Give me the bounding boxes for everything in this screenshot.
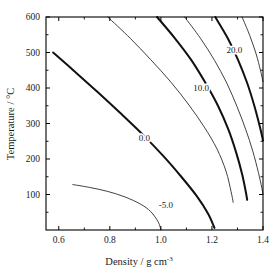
x-tick-label: 0.8: [104, 235, 116, 245]
y-tick-label: 400: [26, 83, 41, 93]
y-tick-label: 100: [26, 190, 41, 200]
y-tick-label: 200: [26, 154, 41, 164]
contour-label-0p0: 0.0: [139, 133, 151, 143]
contour-label-10p0: 10.0: [193, 83, 209, 93]
y-tick-label: 300: [26, 119, 41, 129]
contour-label-neg5p0: -5.0: [159, 200, 174, 210]
contour-label-20p0: 20.0: [227, 45, 243, 55]
x-tick-label: 0.6: [53, 235, 65, 245]
x-axis-title: Density / g cm-3: [105, 255, 173, 267]
chart-canvas: 0.60.81.01.21.4 100200300400500600 -5.0-…: [0, 0, 278, 278]
x-tick-label: 1.0: [155, 235, 167, 245]
x-tick-label: 1.2: [206, 235, 218, 245]
y-tick-label: 600: [26, 12, 41, 22]
x-tick-label: 1.4: [257, 235, 269, 245]
y-tick-label: 500: [26, 48, 41, 58]
svg-text:Density / g cm-3: Density / g cm-3: [105, 255, 173, 267]
y-axis-title: Temperature / °C: [5, 88, 16, 160]
contour-plot-figure: 0.60.81.01.21.4 100200300400500600 -5.0-…: [0, 0, 278, 278]
x-axis-title-exponent: -3: [167, 255, 173, 263]
x-axis-title-text: Density / g cm: [105, 256, 167, 267]
y-axis-tick-labels: 100200300400500600: [26, 12, 41, 200]
x-axis-tick-labels: 0.60.81.01.21.4: [53, 235, 269, 245]
